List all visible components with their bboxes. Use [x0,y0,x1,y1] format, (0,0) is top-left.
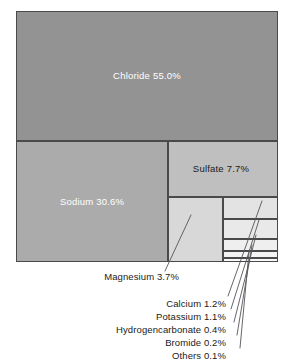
treemap-plot-area: Chloride 55.0% Sodium 30.6% Sulfate 7.7% [16,11,278,262]
treemap-block-label-sulfate: Sulfate 7.7% [193,164,249,174]
treemap-block-sulfate[interactable]: Sulfate 7.7% [168,141,278,197]
leader-line-others [240,252,249,348]
callout-label-stack: Calcium 1.2% Potassium 1.1% Hydrogencarb… [0,297,226,362]
treemap-block-bromide[interactable] [223,251,278,258]
callout-label-others: Others 0.1% [0,349,226,362]
treemap-block-others[interactable] [223,258,278,262]
treemap-block-label-chloride: Chloride 55.0% [113,71,181,81]
callout-label-potassium: Potassium 1.1% [0,310,226,323]
callout-label-calcium: Calcium 1.2% [0,297,226,310]
callout-label-magnesium: Magnesium 3.7% [0,272,179,282]
treemap-block-magnesium[interactable] [168,197,223,262]
treemap-block-calcium[interactable] [223,197,278,219]
callout-label-bromide: Bromide 0.2% [0,336,226,349]
callout-label-hydrogencarbonate: Hydrogencarbonate 0.4% [0,323,226,336]
treemap-block-chloride[interactable]: Chloride 55.0% [16,11,278,141]
treemap-figure: Chloride 55.0% Sodium 30.6% Sulfate 7.7%… [0,0,293,362]
treemap-block-hydrogencarbonate[interactable] [223,239,278,251]
treemap-block-sodium[interactable]: Sodium 30.6% [16,141,168,262]
treemap-block-potassium[interactable] [223,219,278,239]
treemap-block-label-sodium: Sodium 30.6% [60,197,124,207]
